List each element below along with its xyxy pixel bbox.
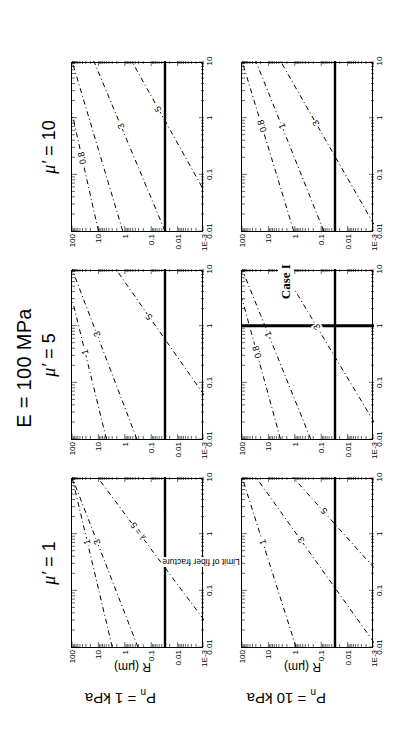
plot-panel: 1351001010.10.011E-30.010.1110 bbox=[241, 478, 373, 648]
figure-title: E = 100 MPa bbox=[13, 18, 36, 718]
y-tick-label: 100 bbox=[68, 650, 77, 663]
y-tick-label: 1 bbox=[120, 234, 129, 238]
x-tick-label: 1 bbox=[205, 531, 214, 535]
y-axis-title-row-1: R (μm) bbox=[291, 660, 321, 674]
y-tick-label: 100 bbox=[238, 650, 247, 663]
x-tick-label: 0.01 bbox=[205, 223, 214, 239]
row-label-pn-1kpa: Pn = 1 kPa bbox=[122, 687, 156, 707]
y-tick-label: 0.01 bbox=[173, 650, 182, 666]
x-tick-label: 10 bbox=[205, 473, 214, 482]
x-tick-label: 1 bbox=[375, 323, 384, 327]
rotated-figure-stage: E = 100 MPa μ′ = 1 μ′ = 5 μ′ = 10 Pn = 1… bbox=[9, 18, 409, 718]
y-tick-label: 100 bbox=[238, 442, 247, 455]
x-tick-label: 1 bbox=[375, 531, 384, 535]
y-tick-label: 0.1 bbox=[147, 650, 156, 661]
y-tick-label: 0.1 bbox=[317, 442, 326, 453]
row-label-pn-10kpa: Pn = 10 kPa bbox=[292, 687, 326, 707]
x-tick-label: 0.1 bbox=[205, 169, 214, 180]
x-tick-label: 0.1 bbox=[205, 585, 214, 596]
x-tick-label: 0.1 bbox=[375, 169, 384, 180]
y-tick-label: 0.01 bbox=[173, 234, 182, 250]
y-tick-label: 0.01 bbox=[343, 650, 352, 666]
x-tick-label: 0.1 bbox=[375, 377, 384, 388]
y-tick-label: 100 bbox=[68, 442, 77, 455]
x-tick-label: 0.01 bbox=[205, 639, 214, 655]
y-tick-label: 100 bbox=[68, 234, 77, 247]
y-tick-label: 10 bbox=[94, 650, 103, 659]
x-tick-label: 10 bbox=[375, 265, 384, 274]
plot-panel: 13λ = 5Limit of fiber fracture1001010.10… bbox=[71, 478, 203, 648]
x-tick-label: 10 bbox=[375, 473, 384, 482]
y-tick-label: 0.01 bbox=[343, 234, 352, 250]
y-tick-label: 0.01 bbox=[173, 442, 182, 458]
y-tick-label: 1 bbox=[290, 650, 299, 654]
limit-of-fiber-fracture-label: Limit of fiber fracture bbox=[161, 557, 240, 567]
y-tick-label: 0.01 bbox=[343, 442, 352, 458]
y-tick-label: 10 bbox=[264, 650, 273, 659]
y-tick-label: 100 bbox=[238, 234, 247, 247]
y-tick-label: 10 bbox=[264, 234, 273, 243]
x-tick-label: 10 bbox=[205, 265, 214, 274]
x-tick-label: 0.1 bbox=[375, 585, 384, 596]
x-tick-label: 0.1 bbox=[205, 377, 214, 388]
y-tick-label: 1 bbox=[290, 234, 299, 238]
y-tick-label: 0.1 bbox=[317, 650, 326, 661]
y-tick-label: 10 bbox=[94, 234, 103, 243]
plot-panel: 0.813Case I1001010.10.011E-30.010.1110 bbox=[241, 270, 373, 440]
y-tick-label: 0.1 bbox=[317, 234, 326, 245]
column-header-mu-1: μ′ = 1 bbox=[39, 478, 60, 648]
plot-panel: 0.8351001010.10.011E-30.010.1110 bbox=[71, 62, 203, 232]
y-tick-label: 1 bbox=[120, 650, 129, 654]
x-tick-label: 1 bbox=[375, 115, 384, 119]
y-tick-label: 0.1 bbox=[147, 442, 156, 453]
y-tick-label: 10 bbox=[94, 442, 103, 451]
x-tick-label: 0.01 bbox=[375, 223, 384, 239]
x-tick-label: 0.01 bbox=[205, 431, 214, 447]
x-tick-label: 10 bbox=[375, 57, 384, 66]
y-tick-label: 1 bbox=[290, 442, 299, 446]
y-tick-label: 0.1 bbox=[147, 234, 156, 245]
plot-panel: 0.8131001010.10.011E-30.010.1110 bbox=[241, 62, 373, 232]
figure: E = 100 MPa μ′ = 1 μ′ = 5 μ′ = 10 Pn = 1… bbox=[9, 18, 409, 718]
y-tick-label: 10 bbox=[264, 442, 273, 451]
x-tick-label: 1 bbox=[205, 115, 214, 119]
column-header-mu-10: μ′ = 10 bbox=[39, 62, 60, 232]
y-tick-label: 1 bbox=[120, 442, 129, 446]
x-tick-label: 1 bbox=[205, 323, 214, 327]
case-i-label: Case I bbox=[278, 262, 294, 301]
column-header-mu-5: μ′ = 5 bbox=[39, 270, 60, 440]
plot-panel: 1351001010.10.011E-30.010.1110 bbox=[71, 270, 203, 440]
x-tick-label: 0.01 bbox=[375, 431, 384, 447]
y-axis-title-row-0: R (μm) bbox=[121, 660, 151, 674]
x-tick-label: 0.01 bbox=[375, 639, 384, 655]
x-tick-label: 10 bbox=[205, 57, 214, 66]
